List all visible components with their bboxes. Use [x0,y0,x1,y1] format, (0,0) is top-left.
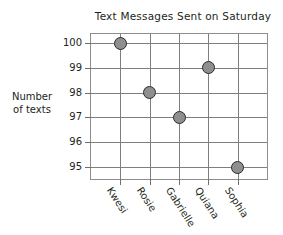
x-tick-mark [150,179,151,185]
data-point [173,111,186,124]
x-tick-label: Rosie [134,185,158,213]
y-tick-mark [85,167,91,168]
data-point [231,161,244,174]
scatter-plot-chart: Text Messages Sent on Saturday Number of… [0,0,283,235]
x-gridline [208,34,209,179]
x-tick-label: Kwesi [105,185,130,215]
y-tick-mark [85,68,91,69]
x-tick-mark [208,179,209,185]
x-gridline [238,34,239,179]
data-point [114,37,127,50]
x-tick-mark [120,179,121,185]
y-tick-label: 97 [50,111,82,122]
x-gridline [150,34,151,179]
y-tick-label: 98 [50,86,82,97]
x-gridline [120,34,121,179]
x-tick-mark [238,179,239,185]
y-tick-mark [85,142,91,143]
x-tick-mark [179,179,180,185]
x-gridline [179,34,180,179]
y-tick-label: 99 [50,61,82,72]
y-tick-label: 95 [50,161,82,172]
x-tick-label: Sophia [222,185,250,220]
data-point [202,61,215,74]
y-tick-label: 100 [50,37,82,48]
plot-area [90,33,268,180]
y-tick-mark [85,43,91,44]
x-tick-label: Quiana [193,185,222,221]
y-tick-mark [85,117,91,118]
chart-title: Text Messages Sent on Saturday [88,10,278,22]
data-point [143,86,156,99]
y-tick-label: 96 [50,136,82,147]
y-tick-mark [85,93,91,94]
